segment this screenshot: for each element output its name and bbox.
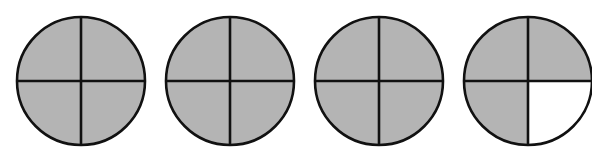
fraction-circle-1 [17,17,145,145]
fraction-circle-3 [315,17,443,145]
fraction-circle-4 [464,17,592,145]
fraction-circles-figure [0,0,592,148]
fraction-circle-2 [166,17,294,145]
